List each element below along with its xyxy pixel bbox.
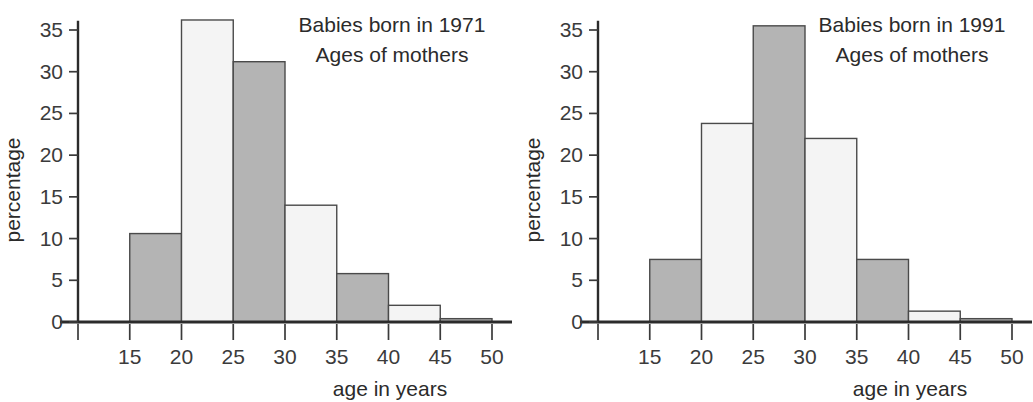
histogram-bar: [753, 26, 805, 322]
x-tick-label: 50: [1000, 345, 1023, 368]
y-ticks-1971: 05101520253035: [40, 18, 78, 333]
y-tick-label: 10: [40, 227, 63, 250]
histogram-bar: [285, 205, 337, 322]
histogram-bar: [182, 20, 234, 322]
chart-svg-1971: 05101520253035 1520253035404550 percenta…: [0, 0, 517, 402]
y-tick-label: 20: [560, 143, 583, 166]
chart-panel-1971: 05101520253035 1520253035404550 percenta…: [0, 0, 517, 402]
histogram-bar: [337, 274, 389, 322]
x-tick-label: 30: [793, 345, 816, 368]
x-tick-label: 15: [638, 345, 661, 368]
y-tick-label: 25: [40, 101, 63, 124]
chart-panel-1991: 05101520253035 1520253035404550 percenta…: [516, 0, 1033, 402]
x-tick-label: 50: [480, 345, 503, 368]
x-tick-label: 35: [845, 345, 868, 368]
y-axis-title: percentage: [1, 137, 24, 242]
chart-svg-1991: 05101520253035 1520253035404550 percenta…: [516, 0, 1033, 402]
chart-title-line1: Babies born in 1971: [299, 13, 486, 36]
y-tick-label: 30: [40, 60, 63, 83]
bars-group-1991: [650, 26, 1012, 322]
y-tick-label: 0: [571, 310, 583, 333]
x-axis-title: age in years: [853, 377, 967, 400]
x-ticks-1991: 1520253035404550: [598, 324, 1024, 368]
y-tick-label: 20: [40, 143, 63, 166]
x-tick-label: 45: [949, 345, 972, 368]
y-ticks-1991: 05101520253035: [560, 18, 598, 333]
x-tick-label: 45: [429, 345, 452, 368]
histogram-bar: [857, 259, 909, 322]
x-tick-label: 40: [897, 345, 920, 368]
y-tick-label: 25: [560, 101, 583, 124]
x-tick-label: 30: [273, 345, 296, 368]
y-tick-label: 35: [560, 18, 583, 41]
chart-title-line2: Ages of mothers: [836, 43, 989, 66]
x-tick-label: 15: [118, 345, 141, 368]
y-tick-label: 5: [51, 268, 63, 291]
y-tick-label: 35: [40, 18, 63, 41]
histogram-bar: [702, 123, 754, 322]
histogram-bar: [909, 311, 961, 322]
y-tick-label: 15: [40, 185, 63, 208]
histogram-bar: [130, 234, 182, 322]
chart-title-line1: Babies born in 1991: [819, 13, 1006, 36]
y-tick-label: 0: [51, 310, 63, 333]
x-tick-label: 40: [377, 345, 400, 368]
chart-title-line2: Ages of mothers: [316, 43, 469, 66]
histogram-bar: [650, 259, 702, 322]
x-ticks-1971: 1520253035404550: [78, 324, 504, 368]
histogram-bar: [805, 138, 857, 322]
y-tick-label: 5: [571, 268, 583, 291]
x-tick-label: 20: [690, 345, 713, 368]
x-axis-title: age in years: [333, 377, 447, 400]
x-tick-label: 25: [742, 345, 765, 368]
y-tick-label: 30: [560, 60, 583, 83]
histogram-bar: [233, 62, 285, 322]
y-tick-label: 15: [560, 185, 583, 208]
histogram-bar: [389, 305, 441, 322]
y-axis-title: percentage: [521, 137, 544, 242]
histogram-figure: 05101520253035 1520253035404550 percenta…: [0, 0, 1033, 402]
x-tick-label: 20: [170, 345, 193, 368]
y-tick-label: 10: [560, 227, 583, 250]
x-tick-label: 25: [222, 345, 245, 368]
x-tick-label: 35: [325, 345, 348, 368]
